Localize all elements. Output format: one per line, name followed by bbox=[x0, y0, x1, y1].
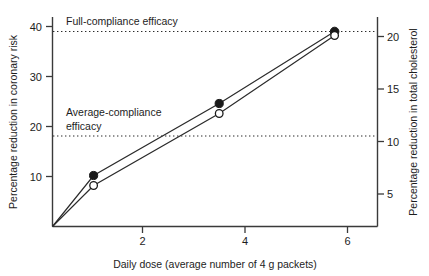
data-point-filled-1 bbox=[90, 171, 98, 179]
y-tick-label-10: 10 bbox=[30, 171, 42, 183]
y-axis-left-ticks bbox=[46, 27, 53, 177]
chart-figure: 40 30 20 10 20 15 10 5 2 4 6 bbox=[0, 0, 429, 276]
y2-tick-label-15: 15 bbox=[387, 83, 399, 95]
y-axis-left-title: Percentage reduction in coronary risk bbox=[7, 34, 19, 209]
x-tick-label-2: 2 bbox=[139, 235, 145, 247]
x-axis-ticks bbox=[143, 227, 348, 234]
y-tick-label-40: 40 bbox=[30, 21, 42, 33]
y-tick-label-30: 30 bbox=[30, 71, 42, 83]
y-axis-left-labels: 40 30 20 10 bbox=[30, 21, 42, 183]
data-point-open-1 bbox=[90, 182, 98, 190]
data-point-open-2 bbox=[215, 110, 223, 118]
y-axis-right-labels: 20 15 10 5 bbox=[387, 31, 399, 201]
full-compliance-efficacy-label: Full-compliance efficacy bbox=[66, 15, 179, 27]
reference-lines bbox=[53, 32, 377, 137]
y-axis-right-ticks bbox=[378, 37, 385, 195]
x-tick-label-6: 6 bbox=[344, 235, 350, 247]
y-tick-label-20: 20 bbox=[30, 121, 42, 133]
x-axis-title: Daily dose (average number of 4 g packet… bbox=[113, 258, 317, 270]
annotation-full-compliance: Full-compliance efficacy bbox=[66, 15, 179, 27]
annotation-average-compliance: Average-compliance efficacy bbox=[66, 106, 162, 132]
y2-tick-label-5: 5 bbox=[387, 188, 393, 200]
data-point-open-3 bbox=[331, 32, 339, 40]
y-axis-right-title: Percentage reduction in total cholestero… bbox=[407, 28, 419, 215]
average-compliance-efficacy-label-line1: Average-compliance bbox=[66, 106, 162, 118]
x-axis-labels: 2 4 6 bbox=[139, 235, 350, 247]
data-point-filled-2 bbox=[215, 99, 223, 107]
average-compliance-efficacy-label-line2: efficacy bbox=[66, 120, 102, 132]
y2-tick-label-10: 10 bbox=[387, 136, 399, 148]
chart-svg: 40 30 20 10 20 15 10 5 2 4 6 bbox=[0, 0, 429, 276]
y2-tick-label-20: 20 bbox=[387, 31, 399, 43]
x-tick-label-4: 4 bbox=[242, 235, 248, 247]
